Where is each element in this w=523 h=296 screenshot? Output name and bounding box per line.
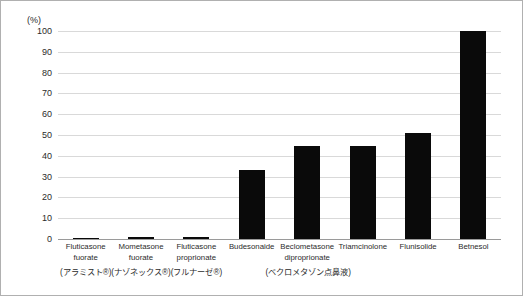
x-axis-tick-label-line: fuorate (59, 253, 112, 264)
x-axis-tick-label: Beclometasonediproprionate (279, 242, 335, 263)
bar-slot (280, 31, 335, 239)
x-axis-tick-label: Fluticasoneproprionate (169, 242, 224, 263)
category-annotation: (ベクロメタゾン点鼻液) (266, 267, 351, 279)
bar-slot (58, 31, 113, 239)
bar-slot (390, 31, 445, 239)
bar (128, 237, 154, 239)
x-axis-tick-label-line: Fluticasone (170, 242, 223, 253)
y-axis-tick-label: 20 (6, 193, 52, 202)
bar (350, 146, 376, 239)
bar-slot (446, 31, 501, 239)
x-axis-tick-label-line: fuorate (114, 253, 167, 264)
y-axis-tick-label: 30 (6, 172, 52, 181)
x-axis-tick-label-line: Flunisolide (391, 242, 444, 253)
x-axis-tick-label-line: Beclometasone (280, 242, 334, 253)
bar (460, 31, 486, 239)
x-axis-tick-label-line: Mometasone (114, 242, 167, 253)
y-axis-tick-label: 100 (6, 27, 52, 36)
x-axis-tick-label: Fluticasonefuorate (58, 242, 113, 263)
bar (405, 133, 431, 239)
category-annotations: (アラミスト®)(ナゾネックス®)(フルナーゼ®)(ベクロメタゾン点鼻液) (58, 267, 501, 283)
bar-slot (335, 31, 390, 239)
x-axis-tick-label-line: proprionate (170, 253, 223, 264)
y-axis-tick-label: 60 (6, 110, 52, 119)
y-axis-tick-label: 0 (6, 235, 52, 244)
chart-figure: (%) 1009080706050403020100 Fluticasonefu… (0, 0, 523, 296)
y-axis-tick-label: 50 (6, 131, 52, 140)
bar (239, 170, 265, 239)
x-axis-tick-label-line: Budesonaide (225, 242, 278, 253)
bar-slot (224, 31, 279, 239)
bar-slot (113, 31, 168, 239)
x-axis-tick-label: Betnesol (446, 242, 501, 263)
x-axis-tick-label: Mometasonefuorate (113, 242, 168, 263)
category-annotation: (アラミスト®) (60, 267, 112, 279)
bar (294, 146, 320, 239)
category-annotation: (フルナーゼ®) (171, 267, 223, 279)
y-axis-unit-label: (%) (27, 15, 41, 25)
x-axis-tick-label: Flunisolide (390, 242, 445, 263)
category-annotation: (ナゾネックス®) (111, 267, 171, 279)
x-axis-tick-label-line: Fluticasone (59, 242, 112, 253)
x-axis-tick-label-line: diproprionate (280, 253, 334, 264)
bar-series (58, 31, 501, 239)
y-axis-tick-labels: 1009080706050403020100 (6, 31, 52, 239)
bar (73, 238, 99, 239)
x-axis-tick-label: Budesonaide (224, 242, 279, 263)
gridline (58, 239, 501, 240)
x-axis-tick-labels: FluticasonefuorateMometasonefuorateFluti… (58, 242, 501, 263)
y-axis-tick-label: 80 (6, 68, 52, 77)
y-axis-tick-label: 40 (6, 151, 52, 160)
x-axis-tick-label: Triamcinolone (335, 242, 390, 263)
x-axis-tick-label-line: Betnesol (447, 242, 500, 253)
y-axis-tick-label: 90 (6, 47, 52, 56)
y-axis-tick-label: 10 (6, 214, 52, 223)
plot-area (58, 31, 501, 239)
bar (183, 237, 209, 239)
y-axis-tick-label: 70 (6, 89, 52, 98)
bar-slot (169, 31, 224, 239)
x-axis-tick-label-line: Triamcinolone (336, 242, 389, 253)
